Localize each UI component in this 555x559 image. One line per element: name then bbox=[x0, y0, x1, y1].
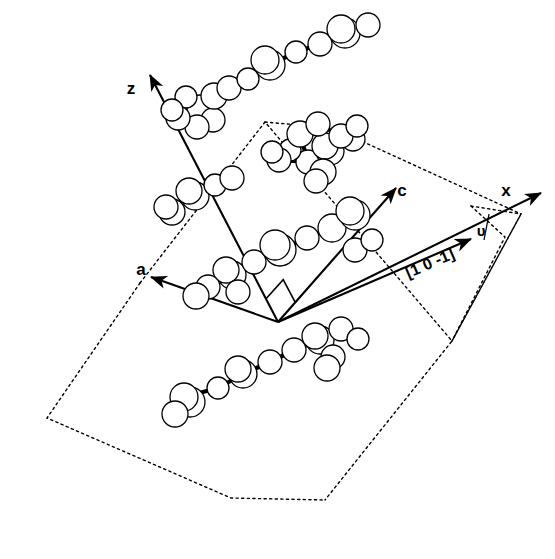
atom bbox=[261, 141, 283, 163]
atom bbox=[285, 41, 307, 63]
atom bbox=[220, 166, 244, 190]
c-axis-label: c bbox=[397, 181, 406, 200]
atom bbox=[347, 328, 369, 350]
atom bbox=[361, 229, 383, 251]
atom bbox=[306, 112, 330, 136]
atom bbox=[282, 338, 306, 362]
atom bbox=[346, 115, 368, 137]
atom bbox=[302, 323, 328, 349]
atom bbox=[207, 377, 229, 399]
upsilon-angle-label: υ bbox=[477, 222, 486, 239]
a-axis-label: a bbox=[136, 260, 146, 279]
atom bbox=[295, 226, 319, 250]
figure-canvas: zacx[1 0 -1]υ bbox=[0, 0, 555, 559]
atom bbox=[162, 401, 188, 427]
atom bbox=[314, 355, 340, 381]
atom bbox=[327, 15, 355, 43]
crystal-structure-diagram: zacx[1 0 -1]υ bbox=[0, 0, 555, 559]
atom bbox=[356, 13, 380, 37]
atom bbox=[251, 46, 279, 74]
atom bbox=[176, 178, 202, 204]
atom bbox=[226, 280, 250, 304]
atom bbox=[161, 99, 183, 121]
atom bbox=[183, 283, 209, 309]
z-axis-label: z bbox=[127, 79, 136, 98]
x-axis-label: x bbox=[501, 181, 511, 200]
atom bbox=[258, 350, 282, 374]
atom bbox=[225, 356, 251, 382]
atom bbox=[304, 169, 328, 193]
atom bbox=[154, 195, 178, 219]
background bbox=[0, 0, 555, 559]
atom bbox=[260, 230, 290, 260]
atom bbox=[336, 197, 364, 225]
